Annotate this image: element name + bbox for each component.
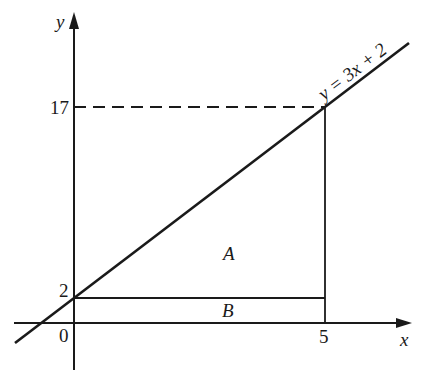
tick-label-5: 5 bbox=[319, 326, 329, 347]
y-axis-label: y bbox=[54, 11, 65, 32]
x-axis-label: x bbox=[399, 329, 409, 350]
tick-label-17: 17 bbox=[50, 97, 69, 118]
area-diagram: y x 17 2 0 5 A B y = 3x + 2 bbox=[0, 0, 423, 379]
tick-label-origin: 0 bbox=[59, 325, 69, 346]
equation-label: y = 3x + 2 bbox=[312, 38, 391, 105]
region-label-b: B bbox=[222, 300, 234, 321]
y-axis-arrow-icon bbox=[69, 12, 79, 29]
tick-label-2: 2 bbox=[59, 280, 69, 301]
region-label-a: A bbox=[221, 243, 235, 264]
x-axis-arrow-icon bbox=[396, 318, 412, 328]
